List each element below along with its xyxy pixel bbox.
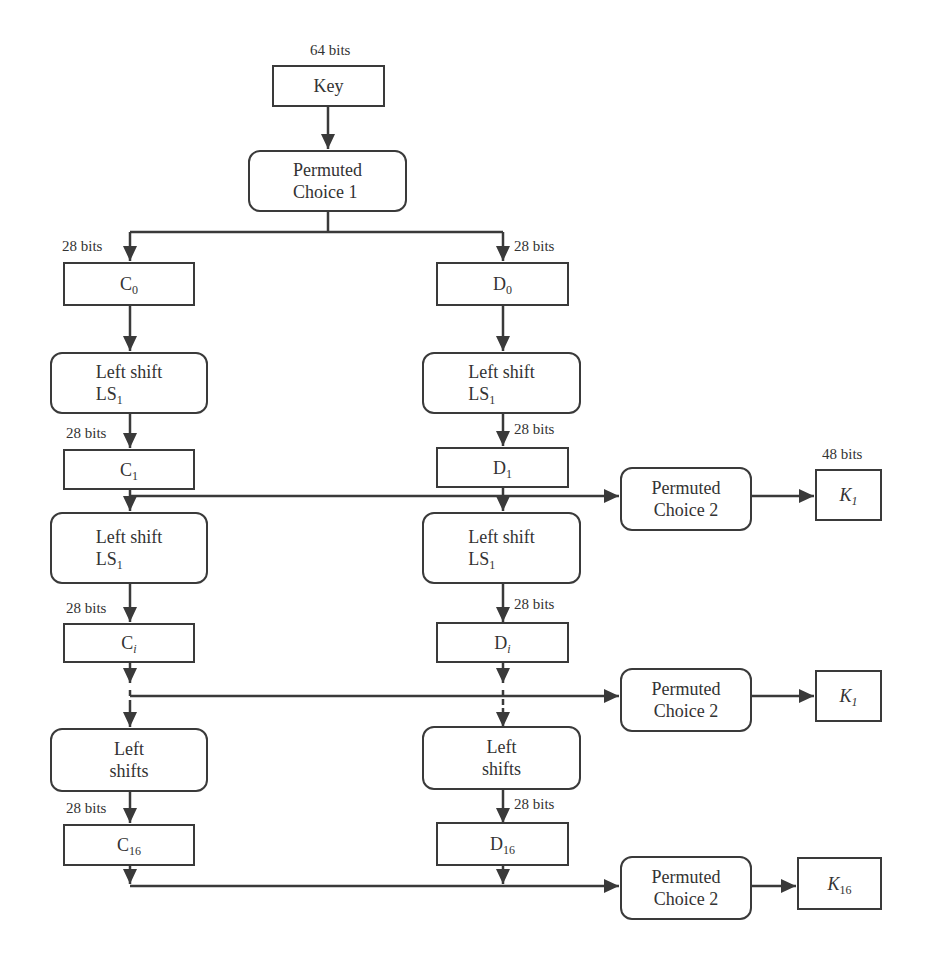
k1-label: K1 — [839, 484, 857, 506]
ki-label: K1 — [839, 685, 857, 707]
c1-box: C1 — [63, 449, 195, 490]
left-shift-d-row2: Left shift LS1 — [422, 512, 581, 584]
key-bits-label: 64 bits — [310, 42, 350, 59]
permuted-choice-2-row1: Permuted Choice 2 — [620, 467, 752, 531]
key-box: Key — [272, 65, 385, 107]
k16-label: K16 — [827, 873, 851, 895]
di-label: Di — [494, 632, 510, 654]
ki-box: K1 — [815, 670, 882, 722]
d0-label: D0 — [493, 273, 512, 295]
k1-box: K1 — [815, 469, 882, 521]
d0-bits-label: 28 bits — [514, 238, 554, 255]
k16-box: K16 — [797, 857, 882, 910]
d16-box: D16 — [436, 822, 569, 866]
ci-bits-label: 28 bits — [66, 600, 106, 617]
ci-label: Ci — [121, 632, 136, 654]
pc2-r3-line2: Choice 2 — [654, 888, 719, 910]
d0-box: D0 — [436, 262, 569, 306]
ls-d3-line2: shifts — [482, 758, 521, 780]
permuted-choice-1-box: Permuted Choice 1 — [248, 150, 407, 212]
di-box: Di — [436, 622, 569, 663]
c0-label: C0 — [120, 273, 138, 295]
ls-c3-line1: Left — [114, 738, 144, 760]
c16-bits-label: 28 bits — [66, 800, 106, 817]
ls-c1-line2: LS1 — [96, 383, 123, 405]
d16-label: D16 — [490, 833, 515, 855]
d16-bits-label: 28 bits — [514, 796, 554, 813]
ls-d2-line2: LS1 — [468, 548, 495, 570]
c16-box: C16 — [63, 824, 195, 866]
c1-label: C1 — [120, 459, 138, 481]
ls-c2-line2: LS1 — [96, 548, 123, 570]
pc2-r1-line2: Choice 2 — [654, 499, 719, 521]
left-shift-d-row1: Left shift LS1 — [422, 352, 581, 414]
ci-box: Ci — [63, 623, 195, 663]
permuted-choice-2-row3: Permuted Choice 2 — [620, 856, 752, 920]
c16-label: C16 — [117, 834, 141, 856]
permuted-choice-2-row2: Permuted Choice 2 — [620, 668, 752, 732]
c1-bits-label: 28 bits — [66, 425, 106, 442]
key-label: Key — [314, 75, 344, 97]
left-shift-c-row2: Left shift LS1 — [50, 512, 208, 584]
ls-d1-line1: Left shift — [468, 361, 534, 383]
d1-bits-label: 28 bits — [514, 421, 554, 438]
pc2-r2-line1: Permuted — [652, 678, 721, 700]
pc1-line2: Choice 1 — [293, 181, 358, 203]
c0-box: C0 — [63, 262, 195, 306]
pc2-r3-line1: Permuted — [652, 866, 721, 888]
ls-d1-line2: LS1 — [468, 383, 495, 405]
ls-c1-line1: Left shift — [96, 361, 162, 383]
left-shifts-d-row3: Left shifts — [422, 726, 581, 790]
pc2-r2-line2: Choice 2 — [654, 700, 719, 722]
d1-label: D1 — [493, 457, 512, 479]
left-shift-c-row1: Left shift LS1 — [50, 352, 208, 414]
d1-box: D1 — [436, 447, 569, 488]
ls-c3-line2: shifts — [109, 760, 148, 782]
left-shifts-c-row3: Left shifts — [50, 728, 208, 792]
ls-d3-line1: Left — [487, 736, 517, 758]
k1-bits-label: 48 bits — [822, 446, 862, 463]
pc2-r1-line1: Permuted — [652, 477, 721, 499]
pc1-line1: Permuted — [293, 159, 362, 181]
ls-c2-line1: Left shift — [96, 526, 162, 548]
c0-bits-label: 28 bits — [62, 238, 102, 255]
di-bits-label: 28 bits — [514, 596, 554, 613]
ls-d2-line1: Left shift — [468, 526, 534, 548]
